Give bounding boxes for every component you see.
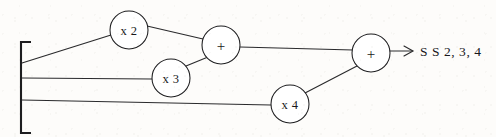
sum-2-label: + (367, 46, 375, 62)
bracket-shape (21, 42, 31, 133)
node-sum-2[interactable]: + (352, 34, 390, 72)
edge-gain-x4-to-sum-2 (305, 66, 357, 93)
node-gain-x3[interactable]: x 3 (152, 59, 190, 97)
gain-x2-label: x 2 (121, 24, 138, 38)
node-gain-x2[interactable]: x 2 (110, 11, 148, 49)
signal-flow-diagram: x 2 + x 3 x 4 + S S 2, 3, 4 (0, 0, 496, 137)
edge-gain-x3-to-sum-1 (186, 57, 208, 66)
sum-1-label: + (217, 38, 225, 54)
edge-bus-to-gain-x3 (22, 78, 152, 79)
input-bracket (21, 42, 31, 133)
edge-gain-x2-to-sum-1 (147, 26, 203, 39)
diagram-canvas: x 2 + x 3 x 4 + S S 2, 3, 4 (0, 0, 496, 137)
edge-bus-to-gain-x2 (22, 35, 111, 63)
node-gain-x4[interactable]: x 4 (271, 85, 309, 123)
edge-sum-1-to-sum-2 (240, 47, 353, 50)
gain-x3-label: x 3 (163, 72, 180, 86)
node-sum-1[interactable]: + (202, 26, 240, 64)
edge-bus-to-gain-x4 (22, 100, 271, 105)
output-label: S S 2, 3, 4 (420, 44, 482, 59)
gain-x4-label: x 4 (282, 98, 299, 112)
